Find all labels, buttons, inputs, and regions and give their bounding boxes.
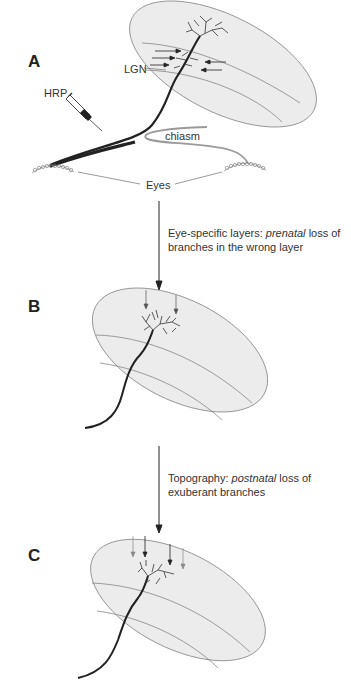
transition-caption-b-c: Topography: postnatal loss of exuberant …: [168, 471, 348, 499]
panel-label-b: B: [28, 297, 40, 317]
caption-text: Topography:: [168, 472, 232, 484]
hrp-label: HRP: [44, 86, 67, 100]
lgn-c: [72, 514, 285, 686]
chiasm-label: chiasm: [165, 129, 200, 143]
eyes-label: Eyes: [146, 178, 170, 192]
caption-line2: branches in the wrong layer: [168, 241, 303, 253]
lgn-a: [110, 0, 335, 153]
caption-italic: prenatal: [266, 227, 306, 239]
caption-text: Eye-specific layers:: [168, 227, 266, 239]
retina-left-icon: [32, 164, 74, 173]
caption-line2: exuberant branches: [168, 486, 265, 498]
transition-caption-a-b: Eye-specific layers: prenatal loss of br…: [168, 226, 348, 254]
caption-text: loss of: [306, 227, 341, 239]
panel-label-c: C: [28, 546, 40, 566]
lgn-b: [73, 262, 288, 437]
caption-text: loss of: [276, 472, 311, 484]
hrp-syringe-icon: [66, 93, 102, 131]
caption-italic: postnatal: [232, 472, 277, 484]
transition-arrow-b-c: [156, 446, 162, 533]
retina-right-icon: [224, 162, 266, 171]
figure-canvas: [0, 0, 351, 688]
lgn-label: LGN: [124, 62, 147, 76]
transition-arrow-a-b: [156, 201, 162, 290]
